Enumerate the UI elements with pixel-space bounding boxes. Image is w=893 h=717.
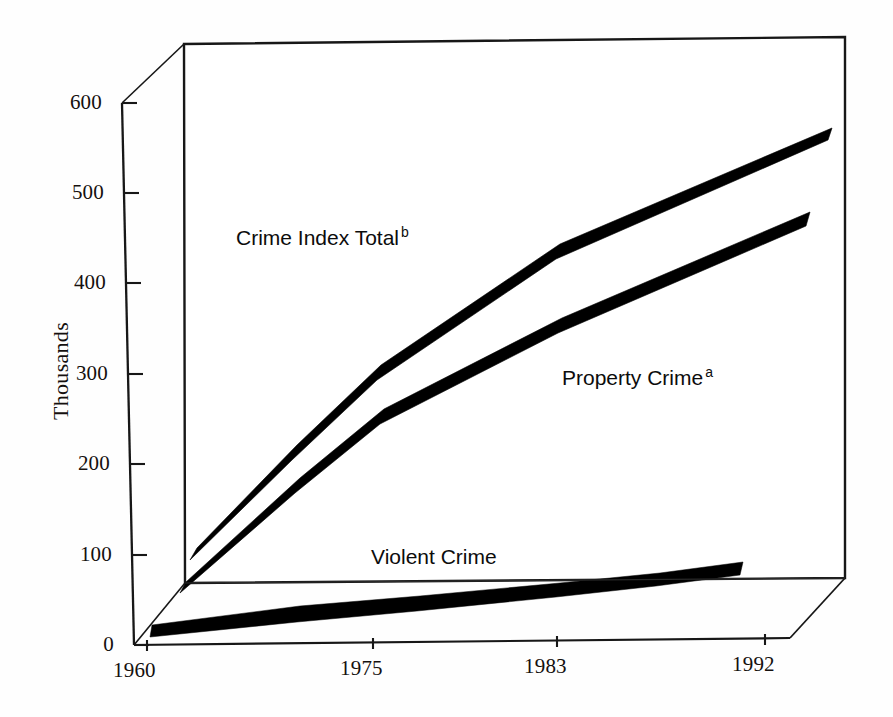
y-tick-label-500: 500 <box>48 180 104 205</box>
y-tick-label-300: 300 <box>52 361 108 386</box>
x-tick-label-1992: 1992 <box>732 652 775 677</box>
series-label-property-crime-text: Property Crime <box>562 366 703 389</box>
series-label-crime-index-total: Crime Index Totalb <box>236 226 409 250</box>
x-axis-line <box>134 638 790 645</box>
y-tick-label-400: 400 <box>50 270 106 295</box>
x-tick-label-1983: 1983 <box>524 654 567 679</box>
y-tick-label-600: 600 <box>46 90 102 115</box>
y-tick-label-200: 200 <box>54 451 110 476</box>
y-tick-label-0: 0 <box>58 632 114 657</box>
depth-edge-bottom-right <box>790 578 845 638</box>
series-label-crime-index-total-text: Crime Index Total <box>236 226 399 249</box>
series-label-property-crime-footnote: a <box>703 364 713 380</box>
crime-index-3d-line-chart <box>0 0 893 717</box>
series-label-violent-crime-text: Violent Crime <box>371 545 497 568</box>
series-label-violent-crime: Violent Crime <box>371 545 497 569</box>
chart-canvas: Thousands 600 500 400 300 200 100 0 1960… <box>0 0 893 717</box>
x-tick-label-1975: 1975 <box>340 656 383 681</box>
x-tick-label-1960: 1960 <box>113 658 156 683</box>
series-label-property-crime: Property Crimea <box>562 366 713 390</box>
depth-edge-top-left <box>122 44 184 103</box>
y-tick-label-100: 100 <box>56 542 112 567</box>
y-axis-ticks <box>122 103 149 645</box>
series-label-crime-index-total-footnote: b <box>399 224 409 240</box>
